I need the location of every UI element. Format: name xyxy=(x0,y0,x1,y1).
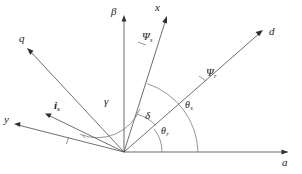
angle-label-theta-r-subscript: r xyxy=(166,130,169,137)
axis-label-a: a xyxy=(282,157,288,168)
angle-label-psi-s: Ψs xyxy=(142,31,153,43)
vector-diagram: a β d q x y is γ δ θr θs Ψs Ψr xyxy=(0,0,302,174)
angle-label-theta-r: θr xyxy=(161,126,169,137)
angle-label-psi-r-subscript: r xyxy=(214,72,217,79)
axis-label-x: x xyxy=(155,2,160,13)
angle-label-psi-s-subscript: s xyxy=(150,36,153,43)
gamma-arc xyxy=(80,109,140,138)
axis-label-d: d xyxy=(269,26,275,37)
angle-label-theta-s: θs xyxy=(185,100,193,111)
angle-label-psi-s-base: Ψ xyxy=(142,30,150,42)
d-axis-ray xyxy=(124,30,263,152)
psi-r-tick xyxy=(199,76,206,81)
axis-label-q: q xyxy=(19,33,25,44)
angle-label-theta-s-subscript: s xyxy=(190,104,193,111)
angle-label-psi-r: Ψr xyxy=(206,67,217,79)
angle-label-delta: δ xyxy=(145,110,150,121)
vector-label-is: is xyxy=(54,100,60,112)
y-is-arc xyxy=(67,137,69,144)
beta-axis-ray xyxy=(122,15,127,152)
angle-label-gamma: γ xyxy=(104,96,108,107)
diagram-canvas xyxy=(0,0,302,174)
axis-label-y: y xyxy=(4,114,9,125)
current-vector-ray xyxy=(45,113,124,152)
axis-label-beta: β xyxy=(111,6,116,17)
vector-label-is-subscript: s xyxy=(57,105,60,112)
alpha-axis-ray xyxy=(124,150,288,155)
angle-label-psi-r-base: Ψ xyxy=(206,66,214,78)
